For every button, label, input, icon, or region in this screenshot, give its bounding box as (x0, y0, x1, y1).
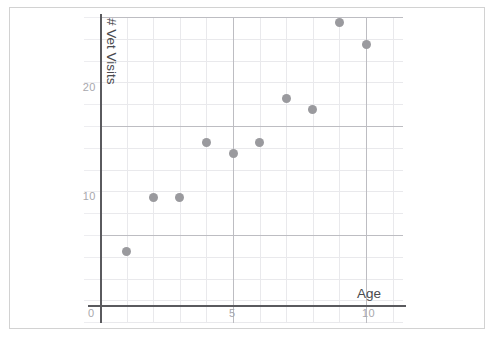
x-tick-label: 5 (229, 308, 236, 319)
data-point (202, 138, 211, 147)
data-point (362, 40, 371, 49)
data-point (149, 193, 158, 202)
y-axis-title: # Vet Visits (105, 18, 118, 85)
chart-page: # Vet Visits Age 51010200 (0, 0, 494, 337)
scatter-plot: # Vet Visits Age 51010200 (0, 0, 494, 337)
y-tick-label: 10 (74, 191, 96, 202)
grid-left-margin (84, 17, 100, 323)
y-tick-label: 20 (74, 82, 96, 93)
plot-grid (100, 17, 403, 323)
data-point (335, 18, 344, 27)
x-axis-line (88, 305, 406, 307)
x-axis-title: Age (357, 287, 381, 300)
grid-major-lines (100, 17, 403, 323)
data-point (229, 149, 238, 158)
x-tick-label: 10 (362, 308, 375, 319)
origin-label: 0 (88, 308, 95, 319)
data-point (175, 193, 184, 202)
y-axis-line (100, 14, 102, 323)
